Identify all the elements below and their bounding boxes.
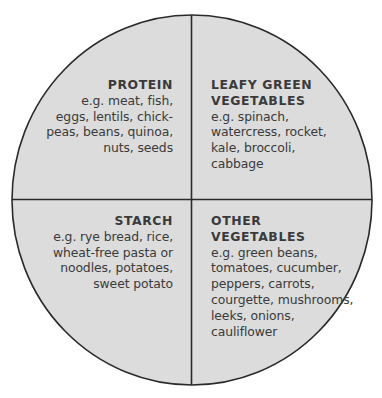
quadrant-body-line: cauliflower [211, 324, 353, 340]
quadrant-body-line: watercress, rocket, [211, 124, 327, 140]
quadrant-title: PROTEIN [46, 77, 173, 93]
quadrant-body-line: wheat-free pasta or [53, 245, 173, 261]
quadrant-title: STARCH [53, 213, 173, 229]
quadrant-body-line: eggs, lentils, chick- [46, 109, 173, 125]
quadrant-protein: PROTEIN e.g. meat, fish, eggs, lentils, … [46, 77, 173, 156]
quadrant-body-line: e.g. meat, fish, [46, 93, 173, 109]
quadrant-body-line: tomatoes, cucumber, [211, 260, 353, 276]
quadrant-other-vegetables: OTHER VEGETABLES e.g. green beans, tomat… [211, 213, 353, 339]
quadrant-body-line: e.g. spinach, [211, 109, 327, 125]
quadrant-body-line: e.g. rye bread, rice, [53, 229, 173, 245]
quadrant-body-line: e.g. green beans, [211, 245, 353, 261]
quadrant-starch: STARCH e.g. rye bread, rice, wheat-free … [53, 213, 173, 292]
quadrant-title: OTHER [211, 213, 353, 229]
quadrant-body-line: sweet potato [53, 276, 173, 292]
quadrant-body-line: nuts, seeds [46, 140, 173, 156]
quadrant-body-line: peas, beans, quinoa, [46, 124, 173, 140]
quadrant-body-line: leeks, onions, [211, 308, 353, 324]
quadrant-body-line: noodles, potatoes, [53, 260, 173, 276]
quadrant-body-line: peppers, carrots, [211, 276, 353, 292]
quadrant-body-line: courgette, mushrooms, [211, 292, 353, 308]
quadrant-title: VEGETABLES [211, 93, 327, 109]
quadrant-title: LEAFY GREEN [211, 77, 327, 93]
quadrant-leafy-green-vegetables: LEAFY GREEN VEGETABLES e.g. spinach, wat… [211, 77, 327, 172]
quadrant-body-line: kale, broccoli, [211, 140, 327, 156]
quadrant-body-line: cabbage [211, 156, 327, 172]
quadrant-title: VEGETABLES [211, 229, 353, 245]
